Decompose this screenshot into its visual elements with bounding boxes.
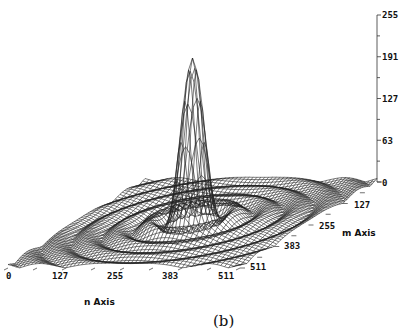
surface-plot: [0, 0, 405, 335]
z-tick-191: 191: [382, 52, 398, 62]
z-tick-255: 255: [382, 10, 398, 20]
n-tick-255: 255: [107, 271, 123, 281]
n-axis-title: n Axis: [84, 297, 115, 307]
z-tick-127: 127: [382, 94, 398, 104]
m-axis-title: m Axis: [342, 228, 376, 238]
m-tick-127: 127: [354, 200, 370, 210]
figure-caption: (b): [213, 312, 234, 330]
m-tick-383: 383: [284, 241, 300, 251]
z-tick-63: 63: [382, 136, 393, 146]
z-tick-0: 0: [382, 178, 387, 188]
n-tick-383: 383: [162, 271, 178, 281]
m-tick-511: 511: [250, 262, 266, 272]
n-tick-0: 0: [6, 271, 11, 281]
n-tick-127: 127: [52, 271, 68, 281]
wireframe-surface: [8, 58, 377, 268]
m-tick-255: 255: [319, 221, 335, 231]
n-tick-511: 511: [218, 271, 234, 281]
